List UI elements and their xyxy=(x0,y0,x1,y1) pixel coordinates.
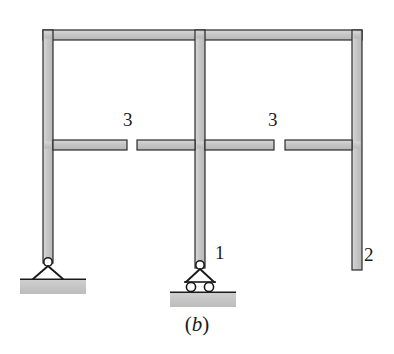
caption-close-paren: ) xyxy=(202,312,209,336)
member-right-column xyxy=(352,30,362,270)
member-mid-beam-center-left xyxy=(137,140,195,150)
figure-caption: (b) xyxy=(0,312,394,337)
ground-block-center xyxy=(170,293,236,307)
label-node-1: 1 xyxy=(215,243,225,262)
pin-circle-left xyxy=(44,258,52,266)
caption-letter: b xyxy=(192,312,203,336)
roller-wheel-left xyxy=(186,282,195,291)
ground-block-left xyxy=(20,280,86,294)
frame-structural-drawing xyxy=(0,0,394,354)
label-hinge-left: 3 xyxy=(123,110,133,129)
label-hinge-right: 3 xyxy=(268,110,278,129)
label-node-2: 2 xyxy=(364,245,374,264)
member-mid-beam-left xyxy=(53,140,127,150)
pin-triangle-left xyxy=(33,266,63,279)
frame-members xyxy=(43,30,362,270)
frame-diagram-figure: 3 3 1 2 (b) xyxy=(0,0,394,354)
member-center-column xyxy=(195,30,205,268)
roller-wheel-right xyxy=(204,282,213,291)
member-mid-beam-center-right xyxy=(205,140,274,150)
roller-triangle-center xyxy=(186,269,214,282)
support-center-roller xyxy=(170,261,236,307)
caption-open-paren: ( xyxy=(185,312,192,336)
member-mid-beam-right xyxy=(285,140,352,150)
pin-circle-center xyxy=(196,261,204,269)
